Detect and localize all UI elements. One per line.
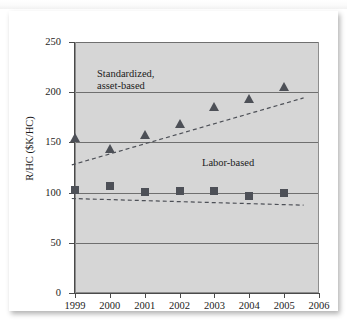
scan-remnant-text	[4, 0, 343, 6]
annotation-labor-based: Labor-based	[202, 157, 254, 169]
data-point-labor-based-1999	[71, 186, 79, 194]
x-tick-2000	[110, 293, 111, 298]
y-tick-label-200: 200	[17, 87, 61, 97]
figure-card: R/HC ($K/HC) Standardized, asset-based L…	[9, 11, 338, 311]
annotation-asset-based: Standardized, asset-based	[97, 68, 154, 91]
annotation-asset-based-line1: Standardized,	[97, 68, 154, 80]
y-tick-label-250: 250	[17, 37, 61, 47]
y-tick-200	[69, 92, 74, 93]
gridline-y-200	[76, 92, 318, 93]
y-tick-label-100: 100	[17, 188, 61, 198]
data-point-asset-based-2005	[279, 82, 289, 91]
gridline-y-150	[76, 142, 318, 143]
x-tick-2002	[180, 293, 181, 298]
x-tick-2005	[284, 293, 285, 298]
data-point-labor-based-2005	[280, 189, 288, 197]
gridline-y-250	[76, 42, 318, 43]
y-tick-50	[69, 243, 74, 244]
data-point-labor-based-2001	[141, 188, 149, 196]
data-point-labor-based-2002	[176, 187, 184, 195]
data-point-asset-based-2001	[140, 130, 150, 139]
data-point-asset-based-2003	[209, 102, 219, 111]
data-point-labor-based-2003	[210, 187, 218, 195]
figure-stage: R/HC ($K/HC) Standardized, asset-based L…	[0, 0, 347, 324]
y-axis-line	[74, 42, 75, 294]
gridline-y-50	[76, 243, 318, 244]
y-tick-150	[69, 142, 74, 143]
x-tick-1999	[75, 293, 76, 298]
y-tick-0	[69, 293, 74, 294]
y-tick-250	[69, 42, 74, 43]
scan-top-remnant	[0, 0, 347, 9]
data-point-asset-based-2004	[244, 94, 254, 103]
data-point-asset-based-2002	[175, 119, 185, 128]
x-tick-2001	[145, 293, 146, 298]
x-tick-label-2006: 2006	[297, 300, 341, 311]
x-tick-2004	[249, 293, 250, 298]
data-point-asset-based-2000	[105, 144, 115, 153]
y-tick-label-150: 150	[17, 137, 61, 147]
x-axis-line	[74, 293, 320, 294]
data-point-asset-based-1999	[70, 133, 80, 142]
data-point-labor-based-2000	[106, 182, 114, 190]
y-tick-label-50: 50	[17, 238, 61, 248]
data-point-labor-based-2004	[245, 192, 253, 200]
annotation-asset-based-line2: asset-based	[97, 80, 154, 92]
x-tick-2003	[214, 293, 215, 298]
x-tick-2006	[319, 293, 320, 298]
y-tick-label-0: 0	[17, 288, 61, 298]
